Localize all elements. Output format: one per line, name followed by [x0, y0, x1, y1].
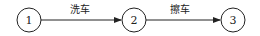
edge-1-2: 洗车 [41, 3, 121, 20]
node-label: 3 [230, 14, 237, 27]
edge-label-wash: 洗车 [70, 3, 90, 15]
node-3: 3 [221, 8, 245, 32]
node-label: 2 [131, 14, 138, 27]
node-label: 1 [26, 14, 33, 27]
node-2: 2 [122, 8, 146, 32]
node-1: 1 [17, 8, 41, 32]
edge-label-wipe: 擦车 [170, 3, 190, 15]
edge-2-3: 擦车 [146, 3, 220, 20]
network-diagram: 洗车 擦车 1 2 3 [0, 0, 260, 36]
